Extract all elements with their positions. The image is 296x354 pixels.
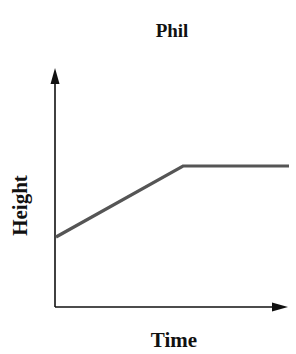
- x-axis-label: Time: [100, 328, 248, 353]
- x-axis-arrow-icon: [272, 303, 288, 312]
- series-line-phil: [56, 166, 289, 237]
- y-axis-arrow-icon: [51, 68, 60, 84]
- chart-plot: [0, 0, 296, 354]
- y-axis-label: Height: [8, 166, 33, 246]
